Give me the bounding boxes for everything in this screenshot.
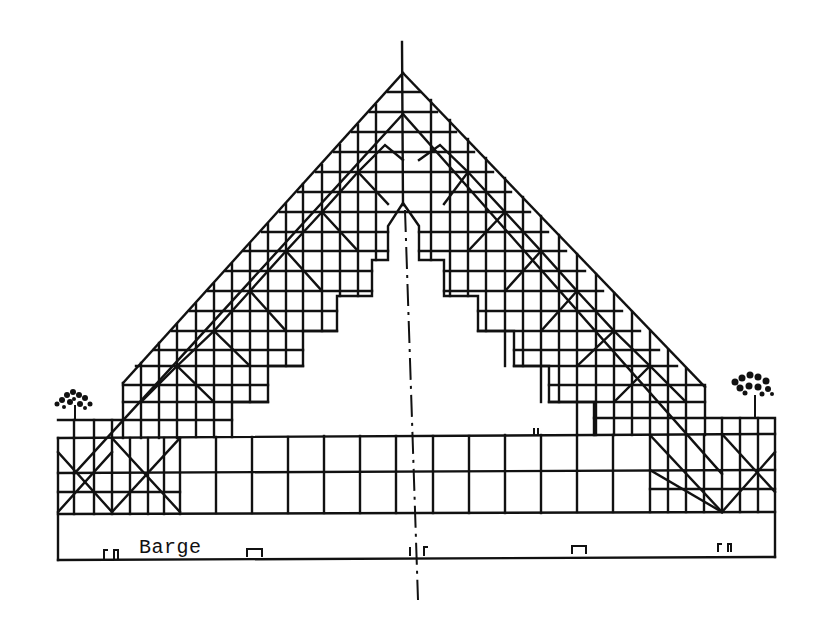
diagonal-bracing (58, 114, 775, 512)
pyramid-horizontal-rails (123, 92, 705, 420)
centerline-axis (402, 42, 418, 600)
tree-right (732, 372, 775, 419)
tree-left (55, 389, 93, 420)
barge-label: Barge (139, 536, 202, 559)
pyramid-vertical-members (141, 100, 686, 438)
pyramid-barge-elevation (0, 0, 818, 627)
